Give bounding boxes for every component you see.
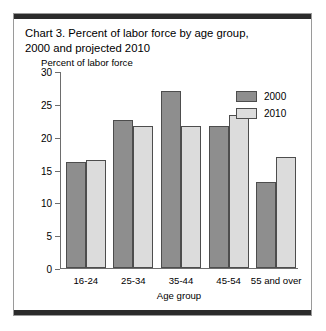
y-tick-mark	[55, 105, 60, 106]
bar-2010-25-34	[133, 126, 153, 268]
y-axis-label: Percent of labor force	[41, 57, 133, 68]
legend-swatch-2000	[236, 91, 257, 102]
figure-top-rule	[14, 14, 311, 19]
y-tick-label: 0	[46, 264, 52, 275]
y-tick-label: 15	[41, 165, 52, 176]
x-tick-label: 25-34	[121, 275, 146, 286]
chart-title-line-1: Chart 3. Percent of labor force by age g…	[25, 27, 249, 39]
y-tick-mark	[55, 203, 60, 204]
x-tick-label: 45-54	[216, 275, 241, 286]
x-tick-label: 35-44	[169, 275, 194, 286]
x-tick-label: 55 and over	[251, 275, 302, 286]
x-axis-label: Age group	[60, 290, 298, 301]
y-tick-label: 20	[41, 132, 52, 143]
bar-2010-45-54	[229, 115, 249, 268]
bar-2000-25-34	[113, 120, 133, 268]
y-tick-label: 25	[41, 99, 52, 110]
y-tick-mark	[55, 72, 60, 73]
bar-2010-55-and-over	[276, 157, 296, 268]
bar-2000-35-44	[161, 91, 181, 268]
figure-bottom-rule	[14, 310, 311, 315]
y-tick-label: 5	[46, 231, 52, 242]
chart-title-line-2: 2000 and projected 2010	[25, 41, 295, 56]
legend-label-2010: 2010	[264, 108, 286, 119]
chart-title: Chart 3. Percent of labor force by age g…	[25, 26, 295, 55]
x-axis-line	[60, 268, 298, 269]
bar-2010-16-24	[86, 160, 106, 268]
chart-legend: 20002010	[236, 88, 286, 122]
legend-swatch-2010	[236, 108, 257, 119]
y-tick-mark	[55, 138, 60, 139]
y-tick-mark	[55, 171, 60, 172]
y-axis-line	[60, 72, 61, 269]
legend-label-2000: 2000	[264, 91, 286, 102]
bar-2000-45-54	[209, 126, 229, 268]
y-tick-mark	[55, 269, 60, 270]
bar-2000-55-and-over	[256, 182, 276, 268]
x-tick-label: 16-24	[74, 275, 99, 286]
y-tick-label: 30	[41, 67, 52, 78]
chart-figure: Chart 3. Percent of labor force by age g…	[13, 13, 312, 316]
bar-2000-16-24	[66, 162, 86, 268]
legend-item-2000: 2000	[236, 88, 286, 105]
y-tick-mark	[55, 236, 60, 237]
bar-2010-35-44	[181, 126, 201, 268]
y-tick-label: 10	[41, 198, 52, 209]
legend-item-2010: 2010	[236, 105, 286, 122]
